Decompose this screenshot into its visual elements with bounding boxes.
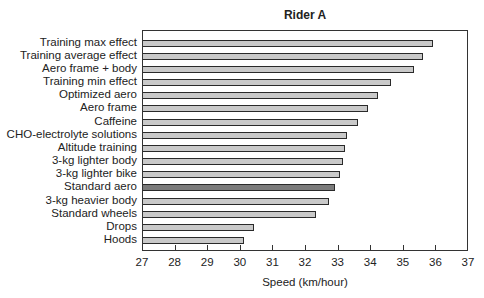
category-label: Training max effect (40, 36, 137, 49)
category-label: Training average effect (20, 49, 137, 62)
category-label: 3-kg lighter body (52, 154, 137, 167)
bar (143, 40, 433, 47)
x-tick-label: 37 (453, 256, 483, 268)
x-tick (240, 245, 241, 251)
bar (143, 66, 414, 73)
chart-title: Rider A (142, 8, 468, 22)
x-tick (403, 245, 404, 251)
bar (143, 53, 423, 60)
category-label: Hoods (104, 233, 137, 246)
bar (143, 211, 316, 218)
x-tick (272, 245, 273, 251)
bar (143, 145, 345, 152)
bar (143, 79, 391, 86)
category-label: 3-kg heavier body (46, 194, 137, 207)
category-label: Aero frame + body (42, 62, 137, 75)
plot-area (142, 30, 468, 251)
x-tick-label: 28 (160, 256, 190, 268)
x-tick-label: 33 (323, 256, 353, 268)
x-tick-label: 34 (355, 256, 385, 268)
category-label: Standard wheels (51, 207, 137, 220)
x-tick (338, 245, 339, 251)
category-label: Drops (106, 220, 137, 233)
x-tick-label: 30 (225, 256, 255, 268)
x-tick-label: 32 (290, 256, 320, 268)
bar (143, 224, 254, 231)
category-label: Caffeine (94, 115, 137, 128)
bar (143, 132, 347, 139)
x-tick-label: 29 (192, 256, 222, 268)
x-tick (175, 245, 176, 251)
bar (143, 92, 378, 99)
bar (143, 198, 329, 205)
category-label: Altitude training (58, 141, 137, 154)
x-tick (370, 245, 371, 251)
category-label: 3-kg lighter bike (56, 167, 137, 180)
bar (143, 119, 358, 126)
category-label: Aero frame (80, 101, 137, 114)
bar (143, 237, 244, 244)
x-tick-label: 31 (257, 256, 287, 268)
bar (143, 158, 343, 165)
category-label: CHO-electrolyte solutions (7, 128, 137, 141)
x-tick-label: 36 (420, 256, 450, 268)
x-tick (305, 245, 306, 251)
bar (143, 184, 335, 191)
bar (143, 105, 368, 112)
category-label: Training min effect (43, 75, 137, 88)
category-label: Standard aero (64, 180, 137, 193)
x-tick-label: 35 (388, 256, 418, 268)
bar (143, 171, 340, 178)
category-label: Optimized aero (59, 88, 137, 101)
x-tick-label: 27 (127, 256, 157, 268)
x-axis-label: Speed (km/hour) (142, 276, 468, 288)
x-tick (207, 245, 208, 251)
x-tick (435, 245, 436, 251)
